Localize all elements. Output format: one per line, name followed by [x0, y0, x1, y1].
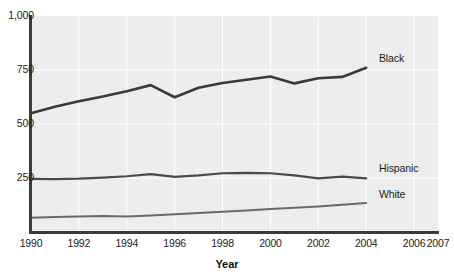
x-axis-tick-label: 2000	[250, 237, 290, 249]
x-axis-tick-label: 1992	[59, 237, 99, 249]
y-axis-tick-label: 750	[0, 64, 34, 75]
plot-lines	[31, 16, 438, 232]
x-axis-tick-label: 2002	[298, 237, 338, 249]
x-axis-tick-label: 1996	[155, 237, 195, 249]
x-axis-tick-label: 2004	[346, 237, 386, 249]
x-axis-tick-label: 2007	[418, 237, 454, 249]
series-label-white: White	[379, 189, 405, 200]
y-axis-tick-label: 500	[0, 118, 34, 129]
x-axis-tick-label: 1990	[11, 237, 51, 249]
series-line-black	[31, 68, 366, 113]
x-axis-tick-label: 1998	[203, 237, 243, 249]
y-axis-tick-label: 250	[0, 172, 34, 183]
y-axis-tick-label: 1,000	[0, 10, 34, 21]
series-line-white	[31, 203, 366, 218]
series-label-black: Black	[379, 53, 404, 64]
x-axis-title: Year	[0, 258, 454, 270]
x-axis-line	[29, 231, 439, 234]
chart-figure: 1,000750500250 1990199219941996199820002…	[0, 0, 454, 276]
x-axis-tick-label: 1994	[107, 237, 147, 249]
series-label-hispanic: Hispanic	[379, 163, 418, 174]
